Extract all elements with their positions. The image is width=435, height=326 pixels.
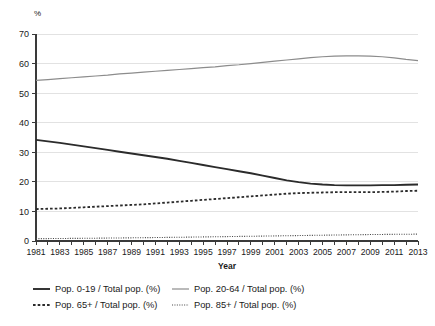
x-tick-label-1981: 1981 (26, 247, 45, 257)
series-line-1 (36, 56, 418, 81)
x-tick-label-1997: 1997 (217, 247, 236, 257)
x-tick-label-1999: 1999 (241, 247, 260, 257)
legend-label-3: Pop. 85+ / Total pop. (%) (194, 300, 296, 310)
x-axis-group: 1981198319851987198919911993199519971999… (26, 241, 427, 271)
x-tick-label-1991: 1991 (146, 247, 165, 257)
x-tick-label-1987: 1987 (98, 247, 117, 257)
legend-label-1: Pop. 20-64 / Total pop. (%) (194, 284, 304, 294)
x-tick-label-1995: 1995 (194, 247, 213, 257)
x-tick-marks (36, 241, 418, 245)
y-tick-marks (32, 34, 36, 241)
x-tick-label-2009: 2009 (361, 247, 380, 257)
y-tick-label-20: 20 (19, 177, 29, 187)
x-tick-label-2011: 2011 (385, 247, 404, 257)
legend-label-2: Pop. 65+ / Total pop. (%) (55, 300, 157, 310)
x-axis-title: Year (218, 261, 237, 271)
y-tick-label-70: 70 (19, 29, 29, 39)
series-line-2 (36, 191, 418, 209)
series-line-3 (36, 234, 418, 238)
y-tick-label-10: 10 (19, 207, 29, 217)
x-tick-label-2003: 2003 (289, 247, 308, 257)
y-tick-label-0: 0 (24, 236, 29, 246)
y-tick-label-30: 30 (19, 148, 29, 158)
y-axis-unit-label: % (34, 9, 41, 18)
x-tick-label-2013: 2013 (408, 247, 427, 257)
x-tick-label-2005: 2005 (313, 247, 332, 257)
x-tick-labels: 1981198319851987198919911993199519971999… (26, 247, 427, 257)
y-tick-label-40: 40 (19, 118, 29, 128)
legend-entry-2: Pop. 65+ / Total pop. (%) (33, 300, 157, 310)
x-tick-label-1989: 1989 (122, 247, 141, 257)
legend-entry-3: Pop. 85+ / Total pop. (%) (172, 300, 296, 310)
x-tick-label-1993: 1993 (170, 247, 189, 257)
x-tick-label-2001: 2001 (265, 247, 284, 257)
y-axis-group: 010203040506070 % (19, 9, 41, 246)
y-tick-labels: 010203040506070 (19, 29, 29, 246)
series-line-0 (36, 140, 418, 186)
population-share-line-chart: 010203040506070 % 1981198319851987198919… (0, 0, 435, 326)
legend-entry-1: Pop. 20-64 / Total pop. (%) (172, 284, 304, 294)
legend-label-0: Pop. 0-19 / Total pop. (%) (55, 284, 160, 294)
y-tick-label-60: 60 (19, 59, 29, 69)
chart-canvas: 010203040506070 % 1981198319851987198919… (0, 0, 435, 326)
x-tick-label-1985: 1985 (74, 247, 93, 257)
x-tick-label-1983: 1983 (50, 247, 69, 257)
y-tick-label-50: 50 (19, 89, 29, 99)
chart-legend: Pop. 0-19 / Total pop. (%)Pop. 20-64 / T… (33, 284, 304, 310)
x-tick-label-2007: 2007 (337, 247, 356, 257)
legend-entry-0: Pop. 0-19 / Total pop. (%) (33, 284, 160, 294)
